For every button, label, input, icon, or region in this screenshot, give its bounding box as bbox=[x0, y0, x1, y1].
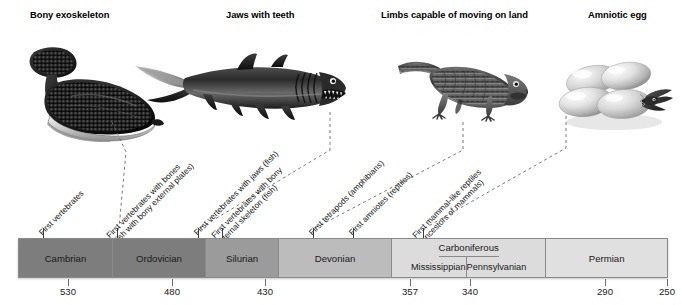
tick-first-bony-internal-skeleton bbox=[222, 228, 223, 238]
axis-tick-250 bbox=[667, 279, 668, 286]
header-bony-exoskeleton: Bony exoskeleton bbox=[30, 9, 109, 20]
evolution-timeline-figure: Bony exoskeleton Jaws with teeth Limbs c… bbox=[0, 0, 682, 305]
placoderm-shark-with-jaws bbox=[133, 48, 348, 126]
event-line: (ancestors of mammals) bbox=[417, 174, 490, 247]
period-permian[interactable]: Permian bbox=[546, 239, 667, 277]
epoch-label: Pennsylvanian bbox=[467, 262, 527, 272]
axis-value-290: 290 bbox=[597, 286, 613, 297]
epoch-pennsylvanian[interactable]: Pennsylvanian bbox=[467, 257, 527, 277]
axis-tick-357 bbox=[410, 279, 411, 286]
tetrapod-amphibian bbox=[396, 50, 531, 122]
axis-tick-530 bbox=[68, 279, 69, 286]
tick-first-tetrapods bbox=[313, 228, 314, 238]
carboniferous-title: Carboniferous bbox=[439, 239, 499, 257]
event-line: First vertebrates bbox=[37, 189, 85, 237]
header-limbs-on-land: Limbs capable of moving on land bbox=[381, 9, 528, 20]
period-label: Devonian bbox=[315, 253, 356, 264]
period-carboniferous[interactable]: Carboniferous Mississippian Pennsylvania… bbox=[392, 239, 546, 277]
amniotic-eggs-with-hatchling-reptile bbox=[556, 52, 676, 132]
axis-tick-480 bbox=[172, 279, 173, 286]
epoch-label: Mississippian bbox=[411, 262, 466, 272]
event-label-first-tetrapods: First tetrapods (amphibians) bbox=[307, 159, 386, 238]
tick-first-vertebrates-with-jaws bbox=[198, 228, 199, 238]
period-devonian[interactable]: Devonian bbox=[279, 239, 392, 277]
period-label: Carboniferous bbox=[439, 242, 499, 253]
axis-value-530: 530 bbox=[60, 286, 76, 297]
axis-value-250: 250 bbox=[659, 286, 675, 297]
header-amniotic-egg: Amniotic egg bbox=[588, 9, 647, 20]
period-ordovician[interactable]: Ordovician bbox=[113, 239, 206, 277]
axis-value-480: 480 bbox=[164, 286, 180, 297]
event-line: (fish with bony external plates) bbox=[111, 162, 196, 247]
event-line: First mammal-like reptiles bbox=[411, 168, 484, 241]
axis-value-430: 430 bbox=[257, 286, 273, 297]
axis-tick-430 bbox=[265, 279, 266, 286]
axis-value-340: 340 bbox=[462, 286, 478, 297]
axis-tick-290 bbox=[605, 279, 606, 286]
tick-first-mammal-like-reptiles bbox=[423, 228, 424, 238]
period-silurian[interactable]: Silurian bbox=[206, 239, 279, 277]
period-label: Cambrian bbox=[45, 253, 87, 264]
tick-first-vertebrates-with-bones bbox=[117, 228, 118, 238]
header-jaws-with-teeth: Jaws with teeth bbox=[226, 9, 295, 20]
axis-tick-340 bbox=[470, 279, 471, 286]
tick-first-vertebrates bbox=[43, 228, 44, 238]
period-label: Ordovician bbox=[136, 253, 182, 264]
period-label: Permian bbox=[589, 253, 625, 264]
geologic-timeline-bar: Cambrian Ordovician Silurian Devonian Ca… bbox=[18, 238, 668, 278]
event-line: First tetrapods (amphibians) bbox=[307, 159, 386, 238]
period-cambrian[interactable]: Cambrian bbox=[19, 239, 113, 277]
period-label: Silurian bbox=[226, 253, 258, 264]
carboniferous-epochs: Mississippian Pennsylvanian bbox=[411, 257, 526, 277]
event-line: internal skeleton (fish) bbox=[216, 172, 291, 247]
axis-value-357: 357 bbox=[402, 286, 418, 297]
tick-first-amniotes bbox=[353, 228, 354, 238]
epoch-mississippian[interactable]: Mississippian bbox=[411, 257, 467, 277]
event-label-first-vertebrates-with-bones: First vertebrates with bones (fish with … bbox=[105, 155, 197, 247]
event-label-first-vertebrates: First vertebrates bbox=[37, 189, 85, 237]
